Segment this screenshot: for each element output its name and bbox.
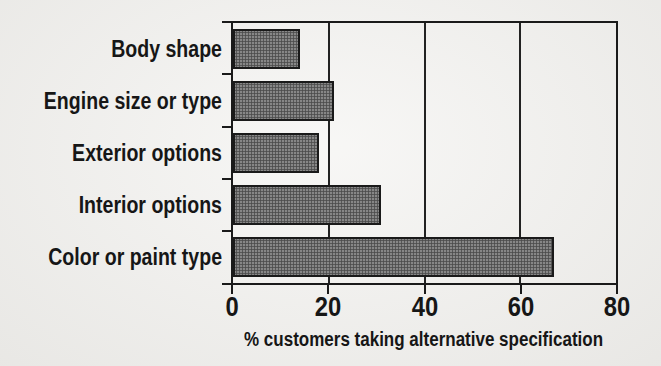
category-label: Interior options xyxy=(33,179,222,231)
bar xyxy=(233,133,319,173)
category-label: Exterior options xyxy=(33,127,222,179)
plot-area xyxy=(231,21,618,285)
bar-row xyxy=(233,179,616,231)
x-tick-label: 40 xyxy=(411,294,437,320)
y-tick-mark xyxy=(222,230,231,232)
y-tick-mark xyxy=(222,283,231,285)
category-label: Engine size or type xyxy=(33,75,222,127)
category-label-column: Body shapeEngine size or typeExterior op… xyxy=(0,23,222,283)
category-label: Color or paint type xyxy=(33,231,222,283)
y-axis-ticks xyxy=(222,21,231,285)
x-tick-label: 80 xyxy=(604,294,630,320)
x-tick-label: 60 xyxy=(508,294,534,320)
bar-row xyxy=(233,75,616,127)
x-tick-label: 20 xyxy=(315,294,341,320)
bar xyxy=(233,237,554,277)
bar-layer xyxy=(233,23,616,283)
bar-row xyxy=(233,23,616,75)
x-axis-title: % customers taking alternative specifica… xyxy=(244,328,573,351)
y-tick-mark xyxy=(222,126,231,128)
category-label: Body shape xyxy=(33,23,222,75)
y-tick-mark xyxy=(222,21,231,23)
x-tick-label: 0 xyxy=(225,294,238,320)
y-tick-mark xyxy=(222,73,231,75)
bar-row xyxy=(233,127,616,179)
bar xyxy=(233,185,381,225)
bar xyxy=(233,29,300,69)
bar xyxy=(233,81,334,121)
x-axis-tick-labels: 020406080 xyxy=(232,294,617,320)
y-tick-mark xyxy=(222,178,231,180)
bar-row xyxy=(233,231,616,283)
bar-chart-figure: Body shapeEngine size or typeExterior op… xyxy=(0,0,661,366)
